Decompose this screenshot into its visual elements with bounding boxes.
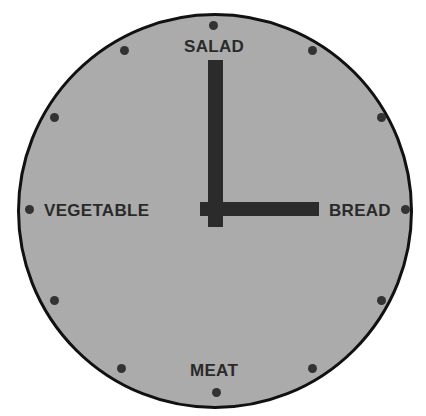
hour-marker-2 xyxy=(377,113,386,122)
label-bread: BREAD xyxy=(329,201,391,221)
label-vegetable: VEGETABLE xyxy=(44,201,149,221)
hour-marker-12 xyxy=(209,21,218,30)
label-salad: SALAD xyxy=(184,37,244,57)
hour-marker-6 xyxy=(212,388,221,397)
hour-marker-1 xyxy=(308,46,317,55)
hour-marker-5 xyxy=(308,364,317,373)
hour-marker-8 xyxy=(50,296,59,305)
hour-marker-7 xyxy=(117,364,126,373)
hour-hand xyxy=(200,202,319,216)
hour-marker-3 xyxy=(401,205,410,214)
hour-marker-10 xyxy=(50,113,59,122)
hour-marker-11 xyxy=(120,46,129,55)
hour-marker-9 xyxy=(25,205,34,214)
hour-marker-4 xyxy=(377,296,386,305)
label-meat: MEAT xyxy=(190,361,238,381)
